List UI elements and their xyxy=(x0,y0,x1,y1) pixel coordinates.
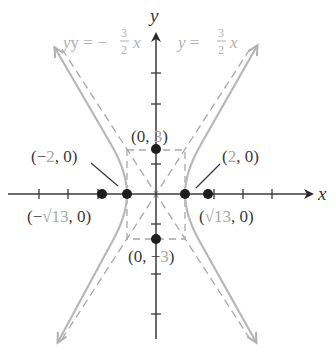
svg-text:x: x xyxy=(132,33,141,52)
label-focus-right: (√13, 0) xyxy=(199,207,254,226)
right-branch-upper xyxy=(185,46,257,194)
label-vertex-right: (2, 0) xyxy=(222,147,259,166)
svg-text:y =: y = xyxy=(176,33,199,52)
point-focus-right xyxy=(203,189,213,199)
label-focus-left: (−√13, 0) xyxy=(27,207,91,226)
x-axis: x xyxy=(8,183,327,204)
svg-text:2: 2 xyxy=(121,43,127,57)
label-vertex-left: (−2, 0) xyxy=(31,147,77,166)
left-branch-upper xyxy=(55,48,127,194)
point-vertex-right xyxy=(180,189,190,199)
svg-text:3: 3 xyxy=(218,26,224,40)
label-covertex-top: (0, 3) xyxy=(131,127,168,146)
svg-text:3: 3 xyxy=(121,26,127,40)
y-axis: y xyxy=(148,5,161,339)
hyperbola-diagram: x y yy = − 3 2 x y = 3 2 x xyxy=(0,0,336,352)
label-covertex-bottom: (0, −3) xyxy=(128,247,174,266)
svg-text:2: 2 xyxy=(218,43,224,57)
svg-text:yy = −: yy = − xyxy=(61,33,107,52)
y-axis-label: y xyxy=(148,5,159,26)
asymptote-label-negative: yy = − 3 2 x xyxy=(61,26,141,57)
point-vertex-left xyxy=(122,189,132,199)
x-axis-label: x xyxy=(317,183,327,204)
asymptote-label-positive: y = 3 2 x xyxy=(176,26,238,57)
point-covertex-bottom xyxy=(151,234,161,244)
svg-text:x: x xyxy=(229,33,238,52)
point-focus-left xyxy=(97,189,107,199)
